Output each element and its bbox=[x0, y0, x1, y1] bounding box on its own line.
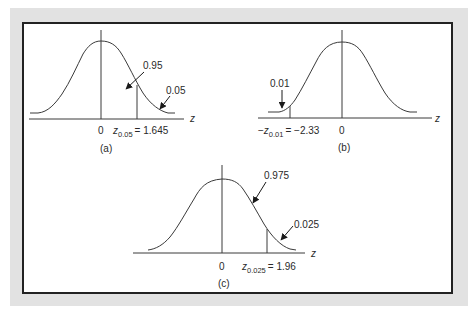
panel-a-crit-value: = 1.645 bbox=[135, 125, 169, 136]
panel-a-area-tail-label: 0.05 bbox=[166, 85, 186, 96]
panel-a-caption: (a) bbox=[100, 143, 112, 154]
panel-b-zero-tick: 0 bbox=[339, 125, 345, 136]
figure-canvas: 0.95 0.05 z 0 z0.05= 1.645 (a) 0.01 z −z… bbox=[0, 0, 474, 316]
panel-a-crit-sub: 0.05 bbox=[118, 130, 133, 139]
panel-b-axis-label: z bbox=[434, 113, 440, 124]
panel-c-zero-tick: 0 bbox=[219, 261, 225, 272]
panel-c-axis-label: z bbox=[310, 248, 316, 259]
panel-c-crit-value: = 1.96 bbox=[268, 261, 297, 272]
panel-a-axis-label: z bbox=[189, 113, 195, 124]
panel-b-area-tail-label: 0.01 bbox=[270, 78, 290, 89]
panel-a-zero-tick: 0 bbox=[98, 125, 104, 136]
panel-b-caption: (b) bbox=[338, 142, 350, 153]
panel-c-crit-sub: 0.025 bbox=[247, 266, 266, 275]
figure: 0.95 0.05 z 0 z0.05= 1.645 (a) 0.01 z −z… bbox=[0, 0, 474, 316]
panel-c-caption: (c) bbox=[218, 278, 230, 289]
panel-b-crit-sub: 0.01 bbox=[269, 130, 284, 139]
panel-a-area-main-label: 0.95 bbox=[143, 60, 163, 71]
panel-b-crit-value: = −2.33 bbox=[285, 125, 319, 136]
panel-c-area-main-label: 0.975 bbox=[264, 170, 289, 181]
panel-c-area-tail-label: 0.025 bbox=[294, 219, 319, 230]
